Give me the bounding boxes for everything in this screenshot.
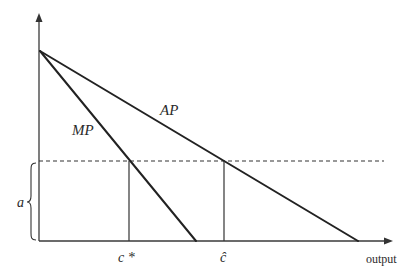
mp-label: MP <box>71 122 94 138</box>
y-axis <box>36 13 43 241</box>
x-axis <box>39 238 393 245</box>
c-star-label: c * <box>118 250 135 265</box>
brace-icon <box>27 163 36 240</box>
x-axis-label: output <box>366 252 397 266</box>
c-hat-label: ĉ <box>220 250 227 265</box>
y-axis-arrow-icon <box>36 13 43 22</box>
ap-label: AP <box>159 102 178 118</box>
mp-curve <box>40 51 196 241</box>
brace-label: a <box>17 195 24 210</box>
diagram: a MP AP c * ĉ output <box>0 0 411 279</box>
ap-curve <box>40 51 358 241</box>
x-axis-arrow-icon <box>384 238 393 245</box>
